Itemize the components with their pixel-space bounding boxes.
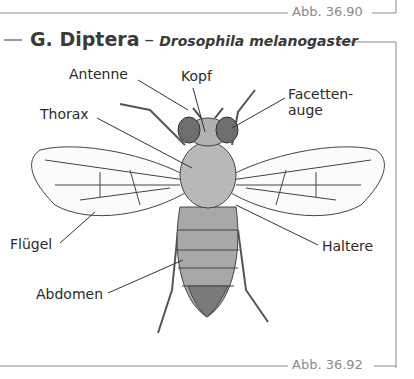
head-shape [178, 108, 238, 146]
label-thorax: Thorax [40, 106, 89, 122]
figure-header: G. Diptera – Drosophila melanogaster [30, 28, 358, 50]
label-facettenauge-1: Facetten- [288, 86, 353, 102]
fly-diagram [0, 0, 414, 379]
abdomen-shape [177, 207, 239, 317]
label-kopf: Kopf [181, 68, 212, 84]
figure-title: G. Diptera [30, 28, 139, 50]
figure-species: Drosophila melanogaster [159, 33, 358, 49]
top-figure-caption: Abb. 36.90 [292, 4, 363, 19]
title-dash: – [145, 28, 155, 50]
figure-caption: Abb. 36.92 [292, 357, 363, 372]
label-haltere: Haltere [322, 238, 373, 254]
wing-right [226, 147, 384, 216]
label-facettenauge-2: auge [288, 102, 323, 118]
label-fluegel: Flügel [10, 236, 52, 252]
wing-left [32, 147, 190, 216]
label-antenne: Antenne [69, 66, 128, 82]
label-abdomen: Abdomen [36, 286, 103, 302]
thorax-shape [180, 142, 236, 208]
